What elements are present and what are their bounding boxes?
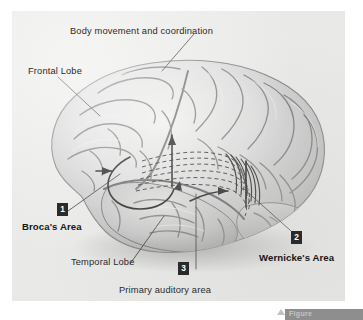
label-frontal-lobe: Frontal Lobe <box>28 67 82 76</box>
label-wernickes-area: Wernicke's Area <box>259 253 334 263</box>
label-primary-auditory-area: Primary auditory area <box>119 286 211 295</box>
label-body-movement: Body movement and coordination <box>70 27 213 36</box>
caption-marker-triangle <box>277 309 285 315</box>
label-brocas-area: Broca's Area <box>22 222 82 232</box>
badge-3-primary-auditory-area: 3 <box>178 262 189 275</box>
badge-1-brocas-area: 1 <box>57 203 68 216</box>
figure-caption-text: Figure <box>289 310 312 317</box>
label-temporal-lobe: Temporal Lobe <box>71 258 134 267</box>
figure-caption-strip: Figure <box>285 309 363 320</box>
badge-2-wernickes-area: 2 <box>291 231 302 244</box>
